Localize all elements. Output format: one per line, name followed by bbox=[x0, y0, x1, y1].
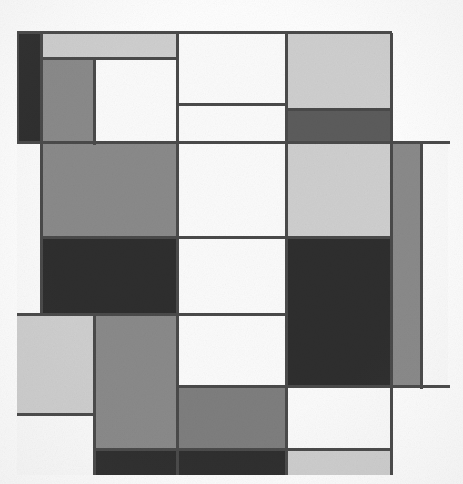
line-h-y387-right bbox=[285, 385, 450, 388]
block-black-right-large bbox=[287, 238, 392, 387]
line-v-x95-upper bbox=[93, 57, 96, 145]
block-white-top-center-lower bbox=[178, 105, 287, 143]
line-v-x178-upper bbox=[176, 33, 179, 315]
block-light-gray-lower-left bbox=[17, 315, 95, 415]
line-h-y110-right bbox=[285, 108, 392, 111]
line-v-x42 bbox=[40, 33, 43, 315]
line-h-y33 bbox=[17, 31, 392, 34]
block-white-top-right-margin bbox=[392, 33, 448, 143]
line-v-x287-lower bbox=[285, 387, 288, 475]
line-h-y450 bbox=[93, 448, 392, 451]
line-h-y105 bbox=[176, 103, 287, 106]
block-white-far-right-column bbox=[422, 143, 448, 387]
block-white-mid-left-margin bbox=[17, 143, 42, 315]
block-white-lower-center bbox=[178, 315, 287, 387]
block-black-center-large bbox=[42, 238, 178, 315]
block-light-gray-top-bar bbox=[42, 33, 178, 59]
block-white-lower-right bbox=[287, 387, 392, 450]
line-v-x392 bbox=[390, 33, 393, 475]
line-h-y315 bbox=[17, 313, 287, 316]
line-v-x287-upper bbox=[285, 33, 288, 387]
line-h-y143 bbox=[17, 141, 450, 144]
block-light-gray-center-right bbox=[287, 143, 392, 238]
block-white-lower-left-bottom bbox=[17, 415, 95, 475]
block-mid-gray-upper-left bbox=[42, 59, 95, 143]
line-v-x422 bbox=[420, 143, 423, 389]
line-h-y415 bbox=[17, 413, 95, 416]
block-light-gray-top-right bbox=[287, 33, 392, 110]
block-mid-gray-center-large bbox=[42, 143, 178, 238]
block-white-top-center bbox=[178, 33, 287, 105]
mondrian-artwork-canvas bbox=[0, 0, 463, 484]
line-h-y387-left bbox=[176, 385, 287, 388]
block-light-gray-bottom-right bbox=[287, 450, 392, 475]
line-h-y59 bbox=[40, 57, 178, 60]
block-black-bottom-bar bbox=[95, 450, 287, 475]
block-mid-gray-lower-tall bbox=[95, 315, 178, 450]
block-mid-gray-lower-center bbox=[178, 387, 287, 450]
line-h-y238 bbox=[40, 236, 392, 239]
block-white-center-tall bbox=[178, 143, 287, 238]
block-white-upper-inner bbox=[95, 59, 178, 143]
block-mid-dark-gray-top-right bbox=[287, 110, 392, 143]
line-v-left-edge bbox=[17, 33, 19, 143]
block-white-center-lower bbox=[178, 238, 287, 315]
block-black-left-column bbox=[17, 33, 42, 143]
block-mid-gray-right-strip bbox=[392, 143, 422, 387]
